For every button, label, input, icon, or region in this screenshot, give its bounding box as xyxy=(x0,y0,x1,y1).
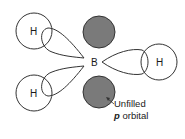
p-orbital-lobe-top xyxy=(83,16,115,48)
annotation-line1: Unfilled xyxy=(114,98,146,109)
p-orbital-lobe-bottom xyxy=(83,76,115,108)
h-label-right: H xyxy=(156,57,163,68)
h-label-upper-left: H xyxy=(30,26,37,37)
annotation-orbital-text: orbital xyxy=(120,110,149,121)
annotation-line2: p orbital xyxy=(113,110,148,121)
bh3-orbital-diagram: H H H B Unfilled p orbital xyxy=(0,0,185,139)
b-label: B xyxy=(91,57,98,68)
h-label-lower-left: H xyxy=(30,88,37,99)
